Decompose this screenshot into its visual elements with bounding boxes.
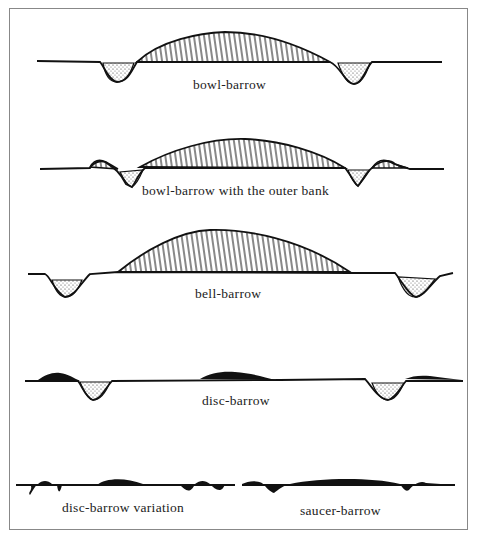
disc-barrow-variation-profile [16, 479, 235, 495]
label-bowl-barrow: bowl-barrow [193, 77, 266, 93]
label-bell-barrow: bell-barrow [195, 286, 261, 302]
saucer-barrow-profile [242, 479, 455, 493]
label-disc-barrow-variation: disc-barrow variation [62, 500, 184, 516]
label-bowl-barrow-outer-bank: bowl-barrow with the outer bank [142, 183, 329, 199]
bowl-barrow-outer-bank-profile [40, 139, 444, 187]
label-disc-barrow: disc-barrow [202, 393, 270, 409]
label-saucer-barrow: saucer-barrow [300, 503, 381, 519]
